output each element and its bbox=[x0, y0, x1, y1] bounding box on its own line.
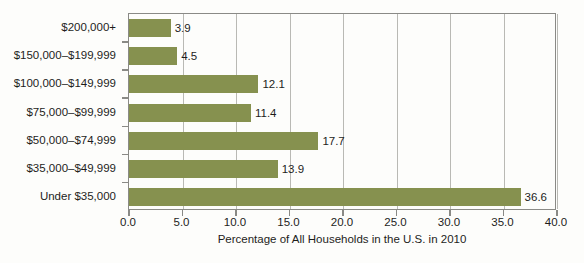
axis-tick-label: 25.0 bbox=[384, 216, 406, 228]
category-label: $50,000–$74,999 bbox=[0, 131, 122, 149]
category-label: $150,000–$199,999 bbox=[0, 46, 122, 64]
bar-value-label: 12.1 bbox=[258, 78, 284, 90]
bar-row: 13.9 bbox=[129, 160, 557, 178]
value-axis-tick-labels: 0.05.010.015.020.025.030.035.040.0 bbox=[128, 216, 556, 232]
bar-value-label: 3.9 bbox=[171, 22, 191, 34]
bar bbox=[129, 104, 251, 122]
category-label: $100,000–$149,999 bbox=[0, 74, 122, 92]
category-label: $35,000–$49,999 bbox=[0, 159, 122, 177]
axis-tick-label: 15.0 bbox=[277, 216, 299, 228]
bar-row: 36.6 bbox=[129, 188, 557, 206]
bar-row: 12.1 bbox=[129, 75, 557, 93]
axis-tick-label: 0.0 bbox=[120, 216, 136, 228]
bar bbox=[129, 19, 171, 37]
bar-chart: $200,000+$150,000–$199,999$100,000–$149,… bbox=[0, 0, 584, 263]
bar bbox=[129, 188, 521, 206]
bar-value-label: 17.7 bbox=[318, 135, 344, 147]
gridline bbox=[557, 14, 558, 209]
bar bbox=[129, 160, 278, 178]
axis-tick-label: 40.0 bbox=[545, 216, 567, 228]
axis-tick-label: 5.0 bbox=[174, 216, 190, 228]
bar bbox=[129, 47, 177, 65]
bar bbox=[129, 75, 258, 93]
category-axis-labels: $200,000+$150,000–$199,999$100,000–$149,… bbox=[0, 13, 122, 210]
plot-area: 3.94.512.111.417.713.936.6 bbox=[128, 13, 556, 210]
x-axis-title: Percentage of All Households in the U.S.… bbox=[128, 233, 556, 245]
axis-tick-label: 30.0 bbox=[438, 216, 460, 228]
bar-value-label: 36.6 bbox=[521, 191, 547, 203]
axis-tick-label: 10.0 bbox=[224, 216, 246, 228]
category-label: $200,000+ bbox=[0, 18, 122, 36]
bar-value-label: 4.5 bbox=[177, 50, 197, 62]
axis-tick-label: 35.0 bbox=[491, 216, 513, 228]
bar-row: 4.5 bbox=[129, 47, 557, 65]
bar bbox=[129, 132, 318, 150]
category-label: Under $35,000 bbox=[0, 187, 122, 205]
bar-row: 3.9 bbox=[129, 19, 557, 37]
axis-tick-label: 20.0 bbox=[331, 216, 353, 228]
bar-row: 11.4 bbox=[129, 104, 557, 122]
bar-value-label: 13.9 bbox=[278, 163, 304, 175]
bar-value-label: 11.4 bbox=[251, 107, 277, 119]
category-label: $75,000–$99,999 bbox=[0, 103, 122, 121]
bar-row: 17.7 bbox=[129, 132, 557, 150]
